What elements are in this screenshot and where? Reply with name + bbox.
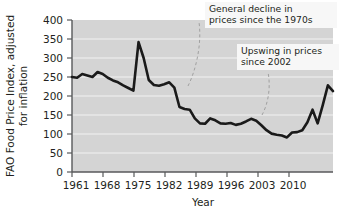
annotation-upswing: Upswing in prices since 2002 [237, 44, 339, 70]
y-tick-label-0: 0 [56, 166, 63, 178]
chart-container: 400 350 300 250 200 150 100 50 0 1961 19… [0, 0, 343, 213]
x-axis-tick-labels: 1961 1968 1975 1982 1989 1996 2003 2010 [63, 179, 307, 191]
y-tick-label-150: 150 [43, 109, 63, 121]
y-tick-label-100: 100 [43, 128, 63, 140]
y-tick-label-250: 250 [43, 71, 63, 83]
annotation-upswing-line2: since 2002 [241, 56, 291, 67]
annotation-upswing-line1: Upswing in prices [241, 45, 322, 56]
annotation-decline: General decline in prices since the 1970… [205, 2, 337, 28]
y-axis-title-line2: for inflation [17, 66, 29, 127]
y-tick-label-350: 350 [43, 33, 63, 45]
food-price-index-line-chart: 400 350 300 250 200 150 100 50 0 1961 19… [0, 0, 343, 213]
x-tick-label-1961: 1961 [63, 179, 90, 191]
x-tick-label-1989: 1989 [187, 179, 214, 191]
annotation-decline-line2: prices since the 1970s [209, 14, 313, 25]
y-axis-tick-labels: 400 350 300 250 200 150 100 50 0 [43, 14, 63, 178]
x-axis-ticks [72, 172, 289, 177]
x-tick-label-1996: 1996 [218, 179, 245, 191]
y-tick-label-400: 400 [43, 14, 63, 26]
y-axis-ticks [67, 20, 72, 172]
x-tick-label-1982: 1982 [156, 179, 183, 191]
y-axis-title-line1: FAO Food Price Index, adjusted [4, 15, 16, 177]
y-tick-label-200: 200 [43, 90, 63, 102]
y-tick-label-300: 300 [43, 52, 63, 64]
x-tick-label-1968: 1968 [94, 179, 121, 191]
x-tick-label-1975: 1975 [125, 179, 152, 191]
x-tick-label-2010: 2010 [280, 179, 307, 191]
x-axis-title: Year [191, 196, 215, 208]
x-tick-label-2003: 2003 [249, 179, 276, 191]
y-tick-label-50: 50 [50, 147, 63, 159]
annotation-decline-line1: General decline in [209, 3, 293, 14]
